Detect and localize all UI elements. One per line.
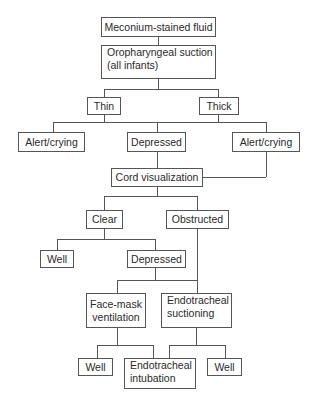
node-thick: Thick (199, 97, 239, 115)
node-depressed-2: Depressed (127, 250, 186, 268)
node-alert-crying-right: Alert/crying (232, 132, 300, 152)
node-thin: Thin (87, 97, 121, 115)
node-obstructed: Obstructed (166, 210, 229, 229)
node-label-line2: (all infants) (107, 59, 158, 72)
node-label: Alert/crying (25, 136, 78, 149)
node-clear: Clear (86, 210, 123, 229)
node-well-3: Well (207, 358, 242, 376)
node-endotracheal-intubation: Endotracheal intubation (124, 358, 196, 389)
flowchart-canvas: Meconium-stained fluid Oropharyngeal suc… (0, 0, 318, 403)
node-label: Thin (94, 100, 114, 113)
node-label-line1: Oropharyngeal suction (107, 46, 213, 59)
node-face-mask-ventilation: Face-mask ventilation (86, 293, 146, 328)
node-label: Thick (206, 100, 231, 113)
node-cord-visualization: Cord visualization (111, 168, 203, 187)
node-label-line1: Endotracheal (167, 294, 229, 307)
node-label: Depressed (131, 136, 182, 149)
node-label-line1: Face-mask (90, 298, 142, 311)
node-label-line2: ventilation (92, 311, 139, 324)
node-endotracheal-suctioning: Endotracheal suctioning (161, 293, 232, 328)
node-depressed-1: Depressed (127, 132, 186, 152)
node-label-line1: Endotracheal (130, 359, 192, 372)
node-meconium-stained-fluid: Meconium-stained fluid (101, 17, 216, 37)
node-label: Well (47, 253, 67, 266)
node-oropharyngeal-suction: Oropharyngeal suction (all infants) (101, 45, 216, 79)
node-label: Cord visualization (116, 171, 199, 184)
node-label: Well (85, 361, 105, 374)
node-label: Clear (92, 213, 117, 226)
node-label-line2: intubation (130, 372, 176, 385)
node-label: Meconium-stained fluid (105, 21, 213, 34)
node-well-2: Well (78, 358, 113, 376)
node-label: Obstructed (172, 213, 223, 226)
node-label: Alert/crying (240, 136, 293, 149)
node-label: Depressed (131, 253, 182, 266)
node-well-1: Well (40, 250, 74, 268)
node-label: Well (214, 361, 234, 374)
node-alert-crying-left: Alert/crying (18, 132, 85, 152)
node-label-line2: suctioning (167, 307, 214, 320)
